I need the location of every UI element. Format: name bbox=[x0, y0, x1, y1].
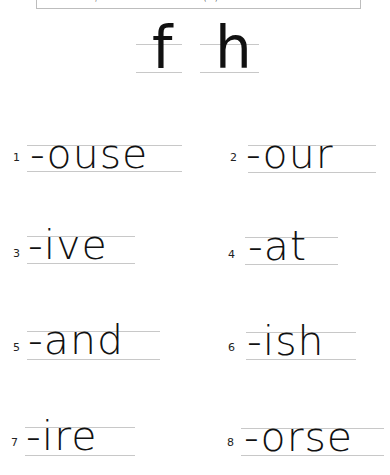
word-ending[interactable]: -ouse bbox=[30, 134, 148, 175]
letter-h: h bbox=[215, 19, 252, 77]
letter-f: f bbox=[152, 19, 172, 77]
word-ending[interactable]: -and bbox=[28, 320, 124, 361]
word-ending[interactable]: -orse bbox=[244, 417, 353, 458]
word-ending[interactable]: -at bbox=[248, 226, 307, 267]
instruction-box: , ( ) bbox=[36, 0, 361, 9]
exercise-number: 5 bbox=[13, 342, 20, 353]
exercise-number: 6 bbox=[228, 342, 235, 353]
exercise-number: 3 bbox=[13, 248, 20, 259]
word-ending[interactable]: -ish bbox=[247, 321, 325, 362]
exercise-number: 7 bbox=[11, 437, 18, 448]
exercise-number: 8 bbox=[227, 437, 234, 448]
exercise-number: 1 bbox=[13, 152, 20, 163]
exercise-number: 4 bbox=[228, 249, 235, 260]
word-ending[interactable]: -ire bbox=[26, 416, 97, 457]
exercise-number: 2 bbox=[230, 152, 237, 163]
instruction-fragment: ( bbox=[204, 0, 206, 2]
instruction-fragment: , bbox=[95, 0, 97, 2]
instruction-fragment: ) bbox=[215, 0, 217, 2]
word-ending[interactable]: -our bbox=[246, 134, 333, 175]
word-ending[interactable]: -ive bbox=[28, 225, 108, 266]
